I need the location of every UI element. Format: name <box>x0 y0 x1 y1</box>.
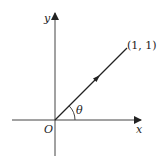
angle-label: θ <box>76 104 83 117</box>
coordinate-diagram: y x O (1, 1) θ <box>0 0 160 162</box>
x-axis-label: x <box>136 123 143 136</box>
vector-line <box>55 48 127 120</box>
endpoint-label: (1, 1) <box>127 39 157 52</box>
angle-arc <box>69 106 75 120</box>
origin-label: O <box>44 123 53 136</box>
y-axis-label: y <box>43 12 51 25</box>
